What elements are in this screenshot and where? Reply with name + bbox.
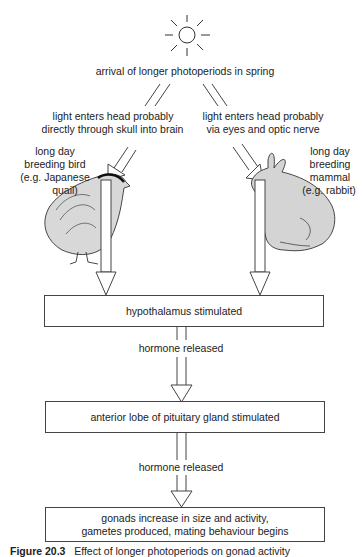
gonads-label-line1: gonads increase in size and activity, [101, 512, 268, 525]
bird-label-line1: long day [20, 145, 90, 158]
mammal-label-line2: breeding [300, 158, 360, 171]
pituitary-box: anterior lobe of pituitary gland stimula… [45, 401, 325, 433]
gonads-box: gonads increase in size and activity, ga… [45, 507, 325, 542]
figure-caption-text: Effect of longer photoperiods on gonad a… [74, 545, 290, 557]
sun-icon [165, 15, 210, 56]
left-path-text-line1: light enters head probably [38, 110, 188, 123]
gonads-label-line2: gametes produced, mating behaviour begin… [81, 525, 288, 538]
figure-caption: Figure 20.3 Effect of longer photoperiod… [10, 545, 290, 557]
bird-label-line2: breeding bird [15, 158, 95, 171]
bird-label-line3: (e.g. Japanese [15, 171, 95, 184]
pituitary-label: anterior lobe of pituitary gland stimula… [90, 411, 279, 424]
mammal-label-line4: (e.g. rabbit) [295, 184, 363, 197]
hypothalamus-label: hypothalamus stimulated [126, 305, 242, 318]
right-path-text-line1: light enters head probably [188, 110, 338, 123]
right-path-text-line2: via eyes and optic nerve [188, 123, 338, 136]
light-path-lines [145, 84, 227, 106]
hormone-released-2: hormone released [131, 461, 231, 474]
hormone-released-1: hormone released [131, 342, 231, 355]
bird-label-line4: quail) [35, 184, 95, 197]
trigger-text: arrival of longer photoperiods in spring [90, 65, 280, 78]
figure-number: Figure 20.3 [10, 545, 65, 557]
mammal-label-line3: mammal [300, 171, 360, 184]
mammal-label-line1: long day [300, 145, 360, 158]
hypothalamus-box: hypothalamus stimulated [44, 295, 324, 327]
left-path-text-line2: directly through skull into brain [30, 123, 195, 136]
